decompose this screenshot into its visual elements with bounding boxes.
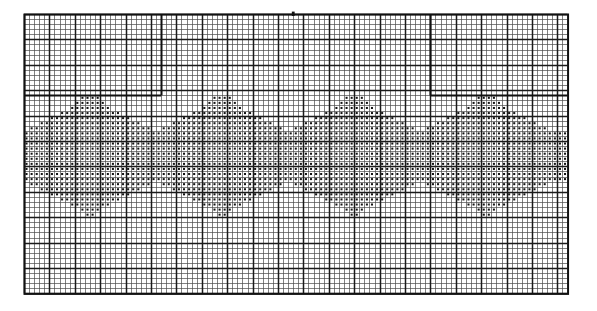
pattern-chart-sheet: [0, 0, 597, 311]
pattern-grid-canvas: [0, 0, 597, 311]
